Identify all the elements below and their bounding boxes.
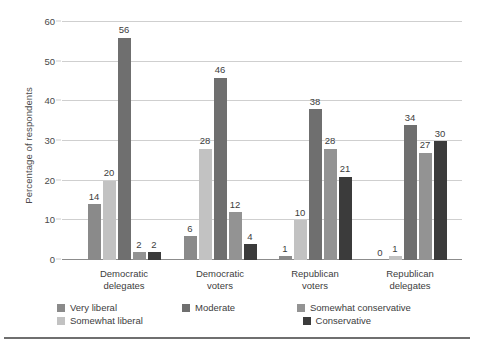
x-axis-category-line: delegates	[386, 280, 434, 292]
bar-slot: 46	[214, 22, 227, 260]
bar-value-label: 0	[377, 248, 382, 258]
bar[interactable]	[214, 78, 227, 260]
bar[interactable]	[294, 220, 307, 260]
x-axis-category-label: Democraticvoters	[196, 268, 244, 291]
x-axis-category-line: voters	[196, 280, 244, 292]
bar[interactable]	[434, 141, 447, 260]
bar-slot: 0	[374, 22, 387, 260]
x-axis-category-line: Democratic	[196, 268, 244, 280]
bar-slot: 10	[294, 22, 307, 260]
bar[interactable]	[389, 256, 402, 260]
bar-chart-figure: Percentage of respondents 01020304050601…	[0, 0, 477, 353]
bar[interactable]	[133, 252, 146, 260]
bar-group-bars: 14205622	[80, 22, 168, 260]
legend-item[interactable]: Moderate	[182, 302, 297, 313]
bar[interactable]	[229, 212, 242, 260]
bar[interactable]	[103, 181, 116, 260]
bar-slot: 2	[148, 22, 161, 260]
bar-value-label: 1	[392, 244, 397, 254]
bar-value-label: 20	[104, 168, 115, 178]
y-tick-mark	[56, 219, 61, 220]
legend-swatch-icon	[57, 304, 65, 312]
bar-value-label: 10	[295, 208, 306, 218]
x-axis-category-label: Democraticdelegates	[100, 268, 148, 291]
legend-swatch-icon	[303, 317, 311, 325]
plot-area: 010203040506014205622Democraticdelegates…	[62, 22, 462, 260]
bar[interactable]	[339, 177, 352, 260]
bar-value-label: 27	[420, 140, 431, 150]
bar-value-label: 28	[325, 136, 336, 146]
bar-value-label: 30	[435, 129, 446, 139]
bar[interactable]	[244, 244, 257, 260]
bar[interactable]	[184, 236, 197, 260]
bar[interactable]	[199, 149, 212, 260]
legend-row: Somewhat liberalConservative	[57, 315, 457, 328]
bar[interactable]	[118, 38, 131, 260]
bar-slot: 27	[419, 22, 432, 260]
x-axis-category-label: Republicanvoters	[291, 268, 339, 291]
legend-item[interactable]: Very liberal	[57, 302, 182, 313]
bar-value-label: 2	[136, 240, 141, 250]
bar[interactable]	[419, 153, 432, 260]
y-tick-label: 50	[44, 55, 55, 66]
bar[interactable]	[279, 256, 292, 260]
legend-item[interactable]: Conservative	[303, 315, 457, 326]
bar-slot: 14	[88, 22, 101, 260]
bottom-divider	[4, 337, 470, 339]
legend-swatch-icon	[57, 317, 65, 325]
legend-item-label: Somewhat conservative	[310, 302, 411, 313]
bar-slot: 28	[199, 22, 212, 260]
bar-value-label: 4	[247, 232, 252, 242]
x-axis-category-label: Republicandelegates	[386, 268, 434, 291]
bar-value-label: 38	[310, 97, 321, 107]
bar-group: 01342730Republicandelegates	[366, 22, 454, 260]
bar-group: 14205622Democraticdelegates	[80, 22, 168, 260]
legend-item[interactable]: Somewhat liberal	[57, 315, 178, 326]
bar-value-label: 6	[187, 224, 192, 234]
bar-slot: 30	[434, 22, 447, 260]
legend-item-label: Very liberal	[70, 302, 117, 313]
bar-group-bars: 01342730	[366, 22, 454, 260]
legend-item-label: Somewhat liberal	[70, 315, 143, 326]
legend-item-label: Conservative	[316, 315, 371, 326]
bar-slot: 4	[244, 22, 257, 260]
legend-item[interactable]: Somewhat conservative	[297, 302, 457, 313]
x-axis-category-line: Republican	[291, 268, 339, 280]
y-tick-label: 20	[44, 174, 55, 185]
bar-slot: 1	[279, 22, 292, 260]
bar[interactable]	[148, 252, 161, 260]
bar-slot: 38	[309, 22, 322, 260]
y-tick-label: 60	[44, 16, 55, 27]
bar-value-label: 46	[215, 65, 226, 75]
y-tick-mark	[56, 100, 61, 101]
bar-group: 62846124Democraticvoters	[176, 22, 264, 260]
x-axis-category-line: Democratic	[100, 268, 148, 280]
bar-slot: 21	[339, 22, 352, 260]
y-tick-label: 40	[44, 95, 55, 106]
bar[interactable]	[404, 125, 417, 260]
y-tick-label: 30	[44, 135, 55, 146]
bar[interactable]	[88, 204, 101, 260]
y-tick-label: 10	[44, 214, 55, 225]
bar-group-bars: 62846124	[176, 22, 264, 260]
x-axis-category-line: voters	[291, 280, 339, 292]
bar-value-label: 28	[200, 136, 211, 146]
bar-slot: 20	[103, 22, 116, 260]
bar-slot: 56	[118, 22, 131, 260]
legend-swatch-icon	[182, 304, 190, 312]
chart-legend: Very liberalModerateSomewhat conservativ…	[57, 302, 457, 328]
bar-value-label: 34	[405, 113, 416, 123]
bar-group: 110382821Republicanvoters	[271, 22, 359, 260]
y-tick-mark	[56, 259, 61, 260]
bar-value-label: 2	[151, 240, 156, 250]
bar-slot: 6	[184, 22, 197, 260]
y-tick-mark	[56, 179, 61, 180]
bar[interactable]	[324, 149, 337, 260]
bar-value-label: 12	[230, 200, 241, 210]
bar-group-bars: 110382821	[271, 22, 359, 260]
y-tick-label: 0	[50, 254, 55, 265]
bar-slot: 28	[324, 22, 337, 260]
legend-row: Very liberalModerateSomewhat conservativ…	[57, 302, 457, 315]
bar[interactable]	[309, 109, 322, 260]
legend-swatch-icon	[297, 304, 305, 312]
